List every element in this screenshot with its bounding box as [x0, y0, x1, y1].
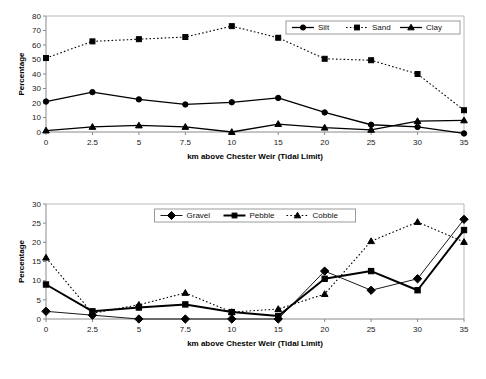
legend-sand-legend-marker — [355, 25, 360, 30]
legend-label-pebble: Pebble — [250, 211, 275, 220]
y-tick-label: 5 — [37, 296, 42, 305]
x-tick-label: 35 — [460, 325, 469, 334]
plot-area-fines: 0102030405060708002.557.5101520253035km … — [0, 0, 486, 190]
data-point-silt — [183, 102, 188, 107]
series-line-silt — [46, 92, 464, 133]
data-point-pebble — [43, 282, 48, 287]
x-tick-label: 5 — [137, 325, 142, 334]
y-tick-label: 60 — [32, 41, 41, 50]
data-point-sand — [415, 72, 420, 77]
x-tick-label: 25 — [367, 325, 376, 334]
x-tick-label: 35 — [460, 138, 469, 147]
y-tick-label: 50 — [32, 55, 41, 64]
y-tick-label: 0 — [37, 128, 42, 137]
legend-silt-legend-marker — [300, 25, 305, 30]
data-point-gravel — [228, 315, 236, 323]
legend: SiltSandClay — [286, 21, 460, 34]
data-point-silt — [43, 99, 48, 104]
data-point-silt — [322, 110, 327, 115]
data-point-pebble — [368, 268, 373, 273]
series-line-gravel — [46, 219, 464, 319]
x-tick-label: 25 — [367, 138, 376, 147]
legend-label-clay: Clay — [426, 23, 442, 32]
data-point-gravel — [42, 307, 50, 315]
data-point-sand — [369, 58, 374, 63]
data-point-silt — [276, 95, 281, 100]
line-chart-fines: 0102030405060708002.557.5101520253035km … — [0, 0, 486, 190]
x-tick-label: 2.5 — [87, 325, 99, 334]
data-point-gravel — [367, 286, 375, 294]
data-point-silt — [461, 131, 466, 136]
x-tick-label: 10 — [227, 138, 236, 147]
y-tick-label: 10 — [32, 113, 41, 122]
legend-label-gravel: Gravel — [187, 211, 211, 220]
series-line-pebble — [46, 230, 464, 316]
data-point-sand — [462, 108, 467, 113]
data-point-cobble — [461, 239, 468, 245]
data-point-silt — [415, 124, 420, 129]
plot-area-coarse: 05101520253002.557.5101520253035km above… — [0, 190, 486, 379]
x-tick-label: 0 — [44, 325, 49, 334]
data-point-gravel — [181, 315, 189, 323]
legend-pebble-legend-marker — [232, 213, 237, 218]
data-point-sand — [276, 35, 281, 40]
data-point-pebble — [415, 288, 420, 293]
data-point-gravel — [413, 275, 421, 283]
legend-label-cobble: Cobble — [313, 211, 339, 220]
y-tick-label: 0 — [37, 315, 42, 324]
y-tick-label: 30 — [32, 84, 41, 93]
data-point-sand — [44, 56, 49, 61]
data-point-sand — [183, 35, 188, 40]
data-point-sand — [90, 39, 95, 44]
data-point-cobble — [414, 219, 421, 225]
x-tick-label: 20 — [320, 138, 329, 147]
y-tick-label: 25 — [32, 219, 41, 228]
x-tick-label: 30 — [413, 138, 422, 147]
series-line-cobble — [46, 222, 464, 313]
x-axis-title: km above Chester Weir (Tidal Limit) — [187, 339, 323, 348]
legend-label-sand: Sand — [372, 23, 391, 32]
data-point-silt — [136, 97, 141, 102]
x-tick-label: 0 — [44, 138, 49, 147]
x-tick-label: 7.5 — [180, 138, 192, 147]
x-axis-title: km above Chester Weir (Tidal Limit) — [187, 152, 323, 161]
x-tick-label: 10 — [227, 325, 236, 334]
y-tick-label: 70 — [32, 26, 41, 35]
y-axis-title: Percentage — [17, 52, 26, 96]
data-point-gravel — [460, 215, 468, 223]
data-point-pebble — [276, 313, 281, 318]
legend-label-silt: Silt — [318, 23, 330, 32]
data-point-cobble — [182, 290, 189, 296]
y-axis-title: Percentage — [17, 239, 26, 283]
chart-panel-fines: 0102030405060708002.557.5101520253035km … — [0, 0, 486, 190]
x-tick-label: 30 — [413, 325, 422, 334]
data-point-cobble — [368, 238, 375, 244]
data-point-sand — [136, 37, 141, 42]
data-point-pebble — [461, 227, 466, 232]
y-tick-label: 30 — [32, 200, 41, 209]
x-tick-label: 20 — [320, 325, 329, 334]
data-point-sand — [322, 56, 327, 61]
x-tick-label: 7.5 — [180, 325, 192, 334]
data-point-cobble — [43, 254, 50, 260]
x-tick-label: 15 — [274, 138, 283, 147]
data-point-silt — [90, 89, 95, 94]
chart-panel-coarse: 05101520253002.557.5101520253035km above… — [0, 190, 486, 379]
y-tick-label: 10 — [32, 276, 41, 285]
x-tick-label: 2.5 — [87, 138, 99, 147]
y-tick-label: 80 — [32, 12, 41, 21]
data-point-silt — [229, 100, 234, 105]
legend: GravelPebbleCobble — [155, 209, 356, 222]
line-chart-coarse: 05101520253002.557.5101520253035km above… — [0, 190, 486, 379]
y-tick-label: 20 — [32, 99, 41, 108]
series-line-sand — [46, 26, 464, 110]
data-point-pebble — [183, 302, 188, 307]
data-point-gravel — [135, 315, 143, 323]
data-point-pebble — [322, 276, 327, 281]
y-tick-label: 40 — [32, 70, 41, 79]
x-tick-label: 5 — [137, 138, 142, 147]
y-tick-label: 15 — [32, 257, 41, 266]
data-point-sand — [229, 24, 234, 29]
y-tick-label: 20 — [32, 238, 41, 247]
x-tick-label: 15 — [274, 325, 283, 334]
